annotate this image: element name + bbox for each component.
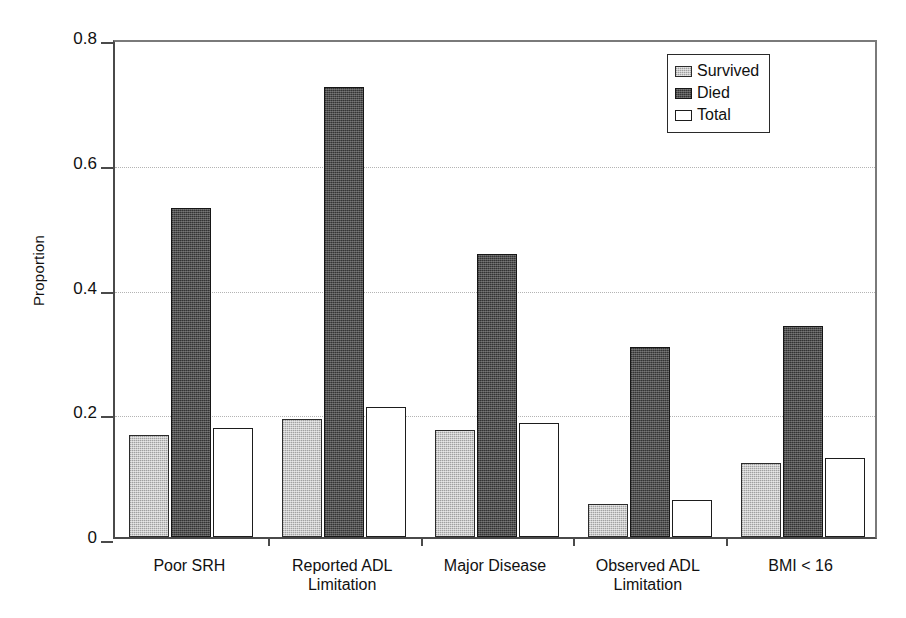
legend-item: Died <box>675 82 759 104</box>
legend-label: Total <box>697 106 731 124</box>
bar-total <box>519 423 559 537</box>
bar-survived <box>741 463 781 537</box>
y-axis-tick <box>101 42 113 44</box>
bar-died <box>783 326 823 537</box>
legend-swatch-died <box>675 88 692 99</box>
legend-swatch-survived <box>675 66 692 77</box>
legend-item: Survived <box>675 60 759 82</box>
x-axis-category-label: BMI < 16 <box>701 556 901 575</box>
bar-group <box>129 42 253 537</box>
legend-label: Survived <box>697 62 759 80</box>
y-axis-tick-label: 0.4 <box>37 279 97 299</box>
bar-total <box>825 458 865 537</box>
x-axis-tick <box>268 537 270 546</box>
bar-total <box>672 500 712 537</box>
y-axis-tick <box>101 292 113 294</box>
chart-legend: SurvivedDiedTotal <box>667 54 770 133</box>
bar-died <box>630 347 670 537</box>
y-axis-tick-label: 0.2 <box>37 403 97 423</box>
x-axis-category-line: BMI < 16 <box>701 556 901 575</box>
x-axis-tick <box>421 537 423 546</box>
y-axis-tick-label: 0.8 <box>37 29 97 49</box>
bar-survived <box>282 419 322 537</box>
x-axis-tick <box>726 537 728 546</box>
y-axis-tick <box>101 541 113 543</box>
legend-swatch-total <box>675 110 692 121</box>
y-axis-title: Proportion <box>30 211 47 331</box>
bar-died <box>171 208 211 537</box>
bar-group <box>435 42 559 537</box>
bar-survived <box>588 504 628 537</box>
y-axis-tick <box>101 416 113 418</box>
bar-died <box>324 87 364 537</box>
bar-group <box>282 42 406 537</box>
chart-figure: Proportion SurvivedDiedTotal 00.20.40.60… <box>0 0 906 618</box>
x-axis-category-line: Limitation <box>242 575 442 594</box>
bar-total <box>366 407 406 537</box>
y-axis-tick-label: 0.6 <box>37 154 97 174</box>
x-axis-category-line: Limitation <box>548 575 748 594</box>
bar-survived <box>435 430 475 537</box>
bar-died <box>477 254 517 537</box>
x-axis-tick <box>573 537 575 546</box>
y-axis-tick-label: 0 <box>37 528 97 548</box>
legend-item: Total <box>675 104 759 126</box>
bar-total <box>213 428 253 537</box>
y-axis-tick <box>101 167 113 169</box>
legend-label: Died <box>697 84 730 102</box>
bar-survived <box>129 435 169 537</box>
